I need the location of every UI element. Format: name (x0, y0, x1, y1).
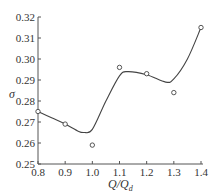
axes (38, 17, 203, 164)
data-point-marker (172, 90, 176, 94)
data-point-marker (199, 25, 203, 29)
y-tick-label: 0.27 (16, 116, 36, 128)
x-axis-label-subscript: d (129, 184, 134, 193)
y-tick-label: 0.32 (16, 11, 35, 23)
fitted-curve (38, 28, 201, 133)
x-tick-label: 1.3 (167, 166, 181, 178)
data-point-marker (36, 109, 40, 113)
x-tick-label: 1.2 (140, 166, 154, 178)
y-axis-ticks: 0.250.260.270.280.290.300.310.32 (16, 11, 41, 170)
x-tick-label: 1.0 (85, 166, 99, 178)
x-tick-label: 1.4 (194, 166, 208, 178)
y-tick-label: 0.28 (16, 95, 36, 107)
x-axis-label-main: Q/Q (108, 177, 129, 191)
data-markers (36, 25, 203, 147)
x-axis-label: Q/Qd (108, 177, 134, 193)
data-point-marker (63, 122, 67, 126)
x-tick-label: 0.8 (31, 166, 45, 178)
y-tick-label: 0.29 (16, 74, 36, 86)
y-tick-label: 0.31 (16, 32, 35, 44)
x-tick-label: 0.9 (58, 166, 72, 178)
data-point-marker (117, 65, 121, 69)
data-point-marker (90, 143, 94, 147)
chart: 0.250.260.270.280.290.300.310.32 0.80.91… (0, 0, 217, 196)
y-tick-label: 0.26 (16, 137, 36, 149)
y-tick-label: 0.30 (16, 53, 36, 65)
data-point-marker (144, 72, 148, 76)
